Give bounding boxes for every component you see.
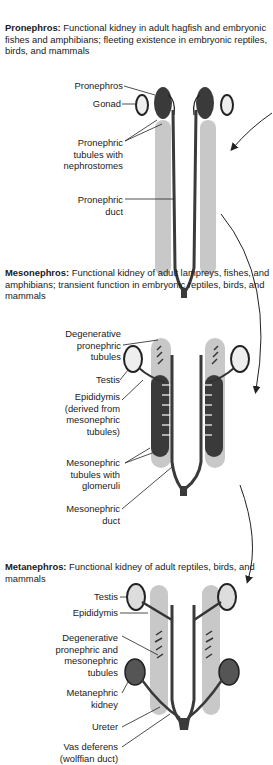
label-mesonephric-duct: Mesonephric duct: [66, 503, 120, 526]
label-testis: Testis: [96, 374, 120, 386]
label-pronephric-duct: Pronephric duct: [78, 194, 123, 217]
metanephros-drawing: [120, 485, 253, 747]
metanephros-description: Metanephros: Functional kidney of adult …: [5, 561, 273, 584]
label-gonad: Gonad: [93, 98, 121, 110]
label-vas-deferens: Vas deferens (wolffian duct): [60, 741, 118, 764]
label-metanephric-kidney: Metanephric kidney: [66, 687, 118, 710]
pronephros-description: Pronephros: Functional kidney in adult h…: [5, 22, 273, 57]
label-ureter: Ureter: [92, 721, 118, 733]
label-testis-meta: Testis: [94, 591, 118, 603]
label-pronephros: Pronephros: [75, 80, 123, 92]
mesonephros-description: Mesonephros: Functional kidney of adult …: [5, 267, 273, 302]
label-pronephric-tubules: Pronephric tubules with nephrostomes: [64, 137, 123, 172]
label-degenerative-pronephric-tubules: Degenerative pronephric tubules: [65, 328, 121, 363]
metanephros-title: Metanephros:: [5, 561, 66, 572]
label-degenerative-tubules: Degenerative pronephric and mesonephric …: [55, 632, 118, 678]
kidney-development-diagram: [0, 0, 273, 765]
pronephros-title: Pronephros:: [5, 22, 61, 33]
label-epididymis: Epididymis (derived from mesonephric tub…: [65, 391, 120, 437]
label-epididymis-meta: Epididymis: [73, 607, 118, 619]
mesonephros-title: Mesonephros:: [5, 267, 69, 278]
mesonephros-drawing: [120, 214, 261, 509]
label-mesonephric-tubules: Mesonephric tubules with glomeruli: [66, 457, 120, 492]
